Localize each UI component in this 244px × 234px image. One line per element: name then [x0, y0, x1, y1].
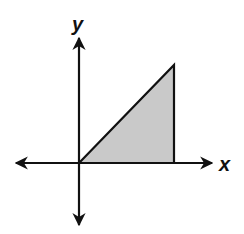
x-axis-label: x: [218, 153, 231, 175]
shaded-triangle: [79, 65, 174, 163]
coordinate-diagram: y x: [0, 0, 244, 234]
y-axis-label: y: [71, 13, 84, 35]
